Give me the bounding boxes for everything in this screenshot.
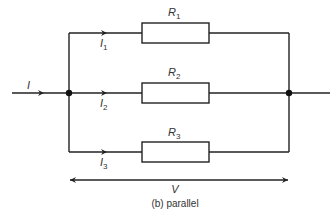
resistor-1-label: R1 (168, 6, 181, 21)
current-2-label: I2 (100, 97, 108, 112)
current-3-label: I3 (100, 156, 108, 171)
resistor-3 (142, 142, 209, 162)
junction-dot-right (286, 90, 292, 96)
resistor-2-label: R2 (168, 66, 181, 81)
current-1-label: I1 (100, 37, 108, 52)
resistor-1 (142, 23, 209, 43)
caption: (b) parallel (151, 198, 198, 209)
junction-dot-left (66, 90, 72, 96)
voltage-label: V (171, 183, 180, 195)
input-current-label: I (27, 79, 30, 91)
resistor-2 (142, 83, 209, 103)
parallel-circuit-diagram: I R1 R2 R3 I1 I2 I3 V (b) parallel (0, 0, 336, 216)
resistor-3-label: R3 (168, 126, 181, 141)
